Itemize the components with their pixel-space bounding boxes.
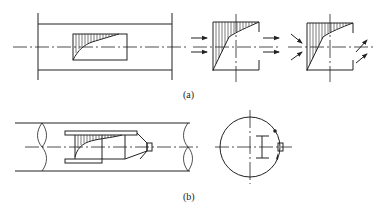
arrow-icon [356,54,367,63]
mount-point-icon [273,129,277,133]
arrow-icon [291,34,302,43]
arrow-icon [356,40,367,52]
technical-diagram [0,0,384,217]
mount-point-icon [276,153,278,160]
cross-section-view [215,110,292,184]
arrow-icon [291,52,302,60]
subfigure-label-a: (a) [183,89,194,100]
channel-view-a [13,13,186,80]
subfigure-label-b: (b) [183,191,195,202]
inclined-flow-view [288,14,373,82]
parallel-flow-view [191,14,279,82]
pipe-view-b [15,123,200,171]
